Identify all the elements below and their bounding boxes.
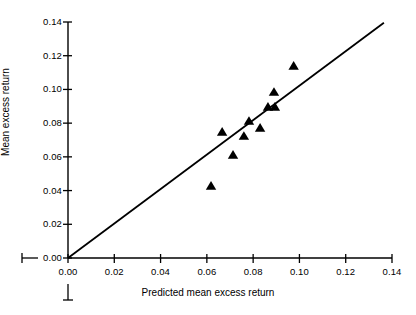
data-point-marker (206, 181, 216, 190)
x-tick-label: 0.00 (46, 266, 90, 277)
data-point-marker (269, 87, 279, 96)
y-tick-label: 0.06 (20, 151, 62, 162)
data-point-marker (239, 131, 249, 140)
y-tick-label: 0.08 (20, 117, 62, 128)
x-tick-label: 0.08 (231, 266, 275, 277)
y-tick-label: 0.04 (20, 185, 62, 196)
x-tick-label: 0.06 (185, 266, 229, 277)
y-tick-label: 0.12 (20, 50, 62, 61)
x-tick-label: 0.02 (92, 266, 136, 277)
data-point-marker (217, 127, 227, 136)
data-point-marker (255, 123, 265, 132)
y-axis-title: Mean excess return (0, 12, 11, 212)
y-tick-label: 0.02 (20, 218, 62, 229)
x-tick-label: 0.10 (277, 266, 321, 277)
reference-line-45deg (68, 23, 384, 258)
x-tick-label: 0.14 (370, 266, 414, 277)
y-tick-label: 0.10 (20, 83, 62, 94)
data-point-marker (288, 61, 298, 70)
x-tick-label: 0.12 (324, 266, 368, 277)
scatter-plot-figure: 0.000.020.040.060.080.100.120.14 0.000.0… (0, 0, 416, 315)
y-tick-label: 0.14 (20, 16, 62, 27)
data-markers (206, 61, 299, 190)
x-axis-title: Predicted mean excess return (0, 287, 416, 298)
x-tick-label: 0.04 (139, 266, 183, 277)
y-tick-label: 0.00 (20, 252, 62, 263)
data-point-marker (228, 150, 238, 159)
